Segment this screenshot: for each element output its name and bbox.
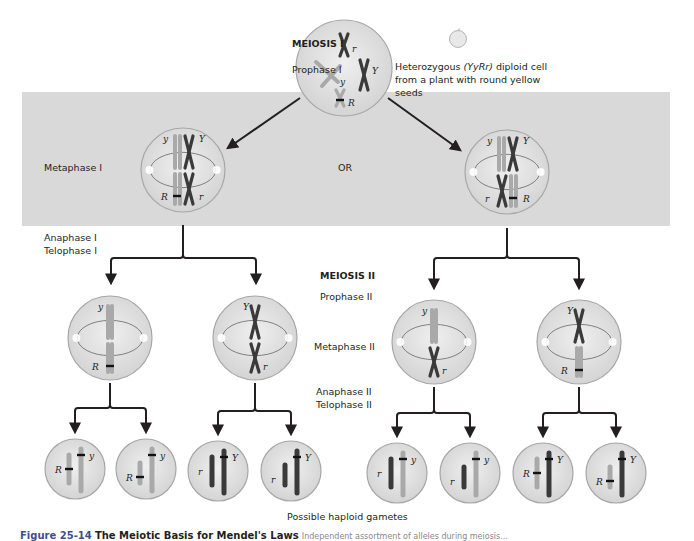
or-label: OR [338,162,352,174]
allele-label: Y [232,453,239,463]
cell-membrane [141,128,225,212]
cell-membrane [586,443,646,503]
prophase-1-label: Prophase I [292,64,342,76]
gamete-1: Ry [45,439,105,499]
allele-label: y [483,455,490,465]
allele-label: Y [557,455,564,465]
prophase-2-label: Prophase II [320,291,372,303]
allele-label: Y [567,306,574,316]
arrow-m2-3b [397,387,434,436]
arrow-m2-3a [255,408,291,434]
allele-band [575,369,583,371]
cell-membrane [513,443,573,503]
centrosome-left [217,334,225,342]
gamete-5: ry [367,443,427,503]
allele-label: y [486,136,493,146]
cell-metaphase-2-1: yR [68,296,152,380]
cell-description: Heterozygous (YyRr) diploid cell from a … [395,60,547,99]
meiosis-2-label: MEIOSIS II [320,270,375,282]
allele-label: R [522,194,530,204]
figure-number: Figure 25-14 [20,530,92,541]
allele-label: R [91,362,99,372]
telophase-1-label: Telophase I [44,245,97,257]
allele-band [509,197,517,199]
arrow-m2-1b [110,405,146,432]
cell-membrane [116,439,176,499]
cell-membrane [440,443,500,503]
allele-label: y [162,134,169,144]
cell-membrane [367,443,427,503]
allele-label: Y [243,302,250,312]
metaphase-2-label: Metaphase II [314,341,375,353]
figure-title: The Meiotic Basis for Mendel's Laws [95,530,299,541]
centrosome-right [140,334,148,342]
allele-label: r [199,192,204,202]
allele-band [136,476,144,478]
allele-band [336,99,344,101]
meiosis-1-label: MEIOSIS I [292,38,344,50]
gamete-6: ry [440,443,500,503]
centrosome-left [469,168,477,176]
allele-label: R [54,465,62,475]
allele-band [399,458,407,460]
centrosome-right [213,166,221,174]
cells-layer: ryYRyYRryYrRyRYryrYRRyRyrYrYryryRYRY [45,20,646,503]
cell-metaphase-2-3: yr [392,300,476,384]
allele-label: y [159,451,166,461]
arrow-left-split-b [183,255,256,283]
cell-metaphase-2-2: Yr [213,296,297,380]
allele-label: r [485,194,490,204]
allele-label: r [263,362,268,372]
cell-metaphase-1-right: yYrR [465,130,549,214]
figure-caption-rest: Independent assortment of alleles during… [302,532,508,541]
allele-label: r [271,475,276,485]
cell-description-post: diploid cell [493,61,547,72]
allele-band [173,195,181,197]
allele-band [148,454,156,456]
arrow-m2-4b [579,410,616,436]
arrow-right-split-b [507,255,579,288]
centrosome-right [464,338,472,346]
cell-membrane [45,439,105,499]
allele-band [106,365,114,367]
allele-label: y [410,455,417,465]
allele-band [545,458,553,460]
arrow-to-metaphase-left [228,98,300,148]
allele-label: y [339,77,346,87]
allele-band [606,480,614,482]
allele-label: Y [305,453,312,463]
cell-description-line2: from a plant with round yellow [395,74,540,85]
allele-label: y [421,306,428,316]
allele-label: r [450,477,455,487]
metaphase-1-label: Metaphase I [44,162,102,174]
allele-band [220,456,228,458]
arrow-m2-3c [434,410,470,436]
centrosome-right [285,334,293,342]
centrosome-right [537,168,545,176]
centrosome-left [145,166,153,174]
allele-label: r [352,44,357,54]
allele-band [65,468,73,470]
telophase-2-label: Telophase II [316,399,372,411]
cell-membrane [213,296,297,380]
cell-metaphase-1-left: yYRr [141,128,225,212]
allele-label: y [97,302,104,312]
allele-band [472,458,480,460]
anaphase-2-label: Anaphase II [316,386,372,398]
arrow-left-split-a [111,225,183,283]
cell-description-line3: seeds [395,87,423,98]
allele-label: Y [630,455,637,465]
centrosome-left [396,338,404,346]
seed-icon [450,31,467,48]
centrosome-left [541,338,549,346]
allele-label: R [347,98,355,108]
allele-label: Y [523,136,530,146]
centrosome-left [72,334,80,342]
arrow-m2-1a [75,383,110,432]
arrow-m2-4a [543,387,579,436]
cell-genotype: (YyRr) [464,61,493,72]
gamete-3: rY [188,441,248,501]
allele-label: r [198,467,203,477]
cell-membrane [465,130,549,214]
allele-band [293,456,301,458]
